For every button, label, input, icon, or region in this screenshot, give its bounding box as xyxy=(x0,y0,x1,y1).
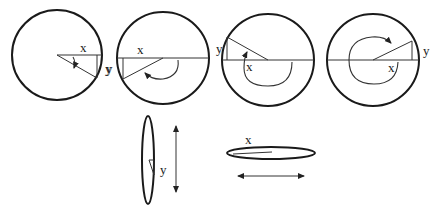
y-label: y xyxy=(423,43,430,58)
vertical-ellipse-panel: y xyxy=(142,116,176,204)
radius-line xyxy=(233,152,272,154)
rotation-arrow-icon xyxy=(73,57,75,68)
y-label: y xyxy=(216,41,223,56)
x-label: x xyxy=(246,59,253,74)
rotation-projection-diagram: x y x y x y x y y xyxy=(0,0,436,217)
x-label: x xyxy=(80,40,87,55)
radius-line xyxy=(373,41,412,60)
circle-panel-2: x y xyxy=(106,12,209,104)
circle-panel-1: x y xyxy=(12,10,112,100)
horizontal-ellipse-panel: x xyxy=(227,132,315,176)
rotation-arrow-icon xyxy=(145,60,178,79)
circle-panel-4: x y xyxy=(327,14,430,106)
radius-line xyxy=(57,55,97,78)
x-label: x xyxy=(388,60,395,75)
y-label: y xyxy=(106,61,113,76)
y-label: y xyxy=(160,162,167,177)
radius-line xyxy=(227,37,268,60)
radius-line xyxy=(123,58,163,79)
x-label: x xyxy=(245,132,252,147)
edge-on-ellipse xyxy=(227,147,315,159)
x-label: x xyxy=(137,42,144,57)
circle-panel-3: x y xyxy=(216,14,314,106)
